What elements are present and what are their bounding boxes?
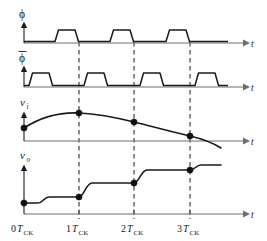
tick-1tck-number: 1 [66,223,71,234]
phi-bar-waveform [24,73,228,86]
tick-3tck-number: 3 [177,223,182,234]
vo-sample-dot-2 [131,180,137,186]
dashed-guide-lines [79,42,190,219]
vo-value-axis-arrow-icon [21,165,27,172]
phi-label: ϕ [19,8,25,21]
tick-0tck-number: 0 [11,223,16,234]
vi-time-axis-arrow-icon [243,138,250,145]
phi-time-axis-arrow-icon [243,40,250,47]
vo-sample-dot-3 [187,167,193,173]
trace-vi: v i t [20,96,254,148]
phi-value-axis-arrow-icon [21,22,27,29]
vo-sample-dot-0 [21,200,27,206]
trace-phi-bar: ϕ t [19,52,255,93]
vi-label: v [20,96,25,108]
tick-label-3tck: 3 T CK [177,223,199,237]
vo-sample-dot-1 [76,194,82,200]
tick-2tck-subscript: CK [134,229,144,237]
phi-bar-time-axis-arrow-icon [243,84,250,91]
vi-sample-dot-0 [21,125,27,131]
timing-diagram-figure: ϕ t ϕ t v [0,0,267,241]
vo-axis-t-label: t [251,210,254,220]
tick-1tck-subscript: CK [79,229,89,237]
vi-axis-t-label: t [251,137,254,147]
phi-waveform [24,30,228,42]
tick-2tck-number: 2 [121,223,126,234]
vi-value-axis-arrow-icon [21,112,27,119]
vo-time-axis-arrow-icon [243,211,250,218]
vo-label: v [20,149,25,161]
phi-bar-value-axis-arrow-icon [21,66,27,73]
vi-label-subscript: i [27,103,29,111]
time-axis-ticks [79,210,190,215]
tick-label-2tck: 2 T CK [121,223,143,237]
vi-sample-dot-1 [76,110,82,116]
vi-waveform [24,113,221,148]
trace-vo: v o t [20,149,254,220]
tick-3tck-subscript: CK [190,229,200,237]
tick-label-0tck: 0 T CK [11,223,33,237]
phi-bar-axis-t-label: t [251,83,254,93]
vi-sample-dot-3 [187,133,193,139]
trace-phi: ϕ t [19,8,254,49]
phi-bar-label: ϕ [19,52,25,65]
tick-label-1tck: 1 T CK [66,223,88,237]
vo-label-subscript: o [27,156,31,164]
timing-diagram-canvas: ϕ t ϕ t v [0,0,267,241]
tick-0tck-subscript: CK [24,229,34,237]
vi-sample-dot-2 [131,119,137,125]
phi-axis-t-label: t [251,39,254,49]
